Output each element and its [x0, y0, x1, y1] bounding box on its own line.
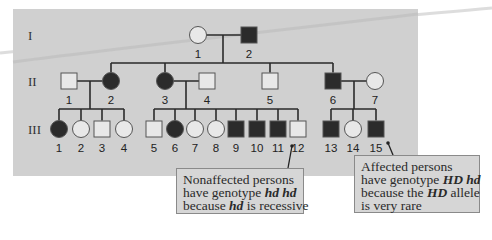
individual-number: 9	[233, 142, 239, 154]
unaffected-male-icon	[262, 73, 278, 89]
affected-male-icon	[323, 121, 339, 137]
affected-female-icon	[51, 121, 68, 138]
unaffected-female-icon	[367, 73, 384, 90]
generation-label: I	[28, 28, 32, 43]
individual-iii-11: 11	[270, 121, 286, 154]
individual-number: 1	[195, 48, 201, 60]
individual-number: 6	[330, 94, 336, 106]
individual-number: 13	[325, 142, 338, 154]
generation-label: III	[28, 122, 41, 137]
affected-male-icon	[368, 121, 384, 137]
unaffected-male-icon	[146, 121, 162, 137]
individual-number: 11	[272, 142, 284, 154]
generation-label: II	[28, 74, 37, 89]
callout-pointer-dot	[386, 141, 390, 145]
individual-number: 5	[151, 142, 157, 154]
individual-number: 7	[192, 142, 198, 154]
unaffected-male-icon	[199, 73, 215, 89]
individual-number: 3	[99, 142, 105, 154]
callout-nonaffected: Nonaffected personshave genotype hd hdbe…	[176, 168, 304, 214]
individual-number: 4	[121, 142, 128, 154]
unaffected-male-icon	[290, 121, 306, 137]
affected-female-icon	[157, 73, 174, 90]
affected-male-icon	[228, 121, 244, 137]
callout-affected: Affected personshave genotype HD hdbecau…	[354, 155, 480, 213]
individual-number: 10	[251, 142, 264, 154]
individual-number: 6	[172, 142, 178, 154]
unaffected-female-icon	[116, 121, 133, 138]
affected-female-icon	[167, 121, 184, 138]
affected-male-icon	[270, 121, 286, 137]
unaffected-female-icon	[73, 121, 90, 138]
callout-pointer-dot	[290, 144, 294, 148]
individual-number: 8	[213, 142, 219, 154]
individual-number: 1	[66, 94, 72, 106]
individual-iii-10: 10	[249, 121, 265, 154]
affected-female-icon	[103, 73, 120, 90]
individual-number: 2	[246, 48, 252, 60]
individual-number: 14	[347, 142, 360, 154]
unaffected-female-icon	[190, 27, 207, 44]
unaffected-female-icon	[345, 121, 362, 138]
individual-iii-13: 13	[323, 121, 339, 154]
individual-number: 12	[292, 142, 305, 154]
unaffected-male-icon	[61, 73, 77, 89]
callout-line: because hd is recessive	[183, 199, 298, 212]
affected-male-icon	[325, 73, 341, 89]
callout-line: is very rare	[361, 199, 474, 212]
individual-number: 4	[204, 94, 211, 106]
individual-iii-15: 15	[368, 121, 384, 154]
unaffected-female-icon	[208, 121, 225, 138]
individual-number: 7	[372, 94, 378, 106]
individual-number: 2	[78, 142, 84, 154]
individual-number: 2	[108, 94, 114, 106]
individual-iii-12: 12	[290, 121, 306, 154]
affected-male-icon	[249, 121, 265, 137]
unaffected-male-icon	[94, 121, 110, 137]
affected-male-icon	[241, 27, 257, 43]
individual-number: 5	[267, 94, 273, 106]
individual-number: 1	[56, 142, 62, 154]
individual-number: 3	[162, 94, 168, 106]
individual-number: 15	[370, 142, 383, 154]
unaffected-female-icon	[187, 121, 204, 138]
